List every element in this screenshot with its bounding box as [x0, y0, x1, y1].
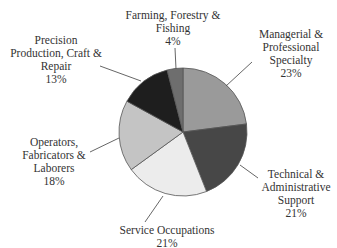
slice-percent-label: 4%	[165, 35, 181, 47]
slice-percent-label: 13%	[45, 73, 67, 85]
slice-percent-label: 21%	[156, 237, 178, 248]
pie-chart: Managerial &ProfessionalSpecialty23%Tech…	[0, 0, 337, 248]
slice-label: Repair	[41, 60, 72, 73]
slice-label: Administrative	[262, 181, 331, 193]
leader-line	[226, 62, 252, 86]
slice-percent-label: 23%	[280, 67, 302, 79]
slice-label: Fishing	[156, 22, 191, 35]
slice-label: Specialty	[270, 54, 313, 67]
leader-line	[175, 48, 176, 69]
leader-line	[240, 165, 258, 178]
leader-line	[90, 138, 119, 152]
slice-label: Farming, Forestry &	[126, 9, 221, 22]
slice-label: Operators,	[30, 136, 78, 149]
slice-label: Professional	[263, 41, 320, 53]
slice-percent-label: 21%	[285, 207, 307, 219]
slice-label: Service Occupations	[120, 224, 215, 237]
slice-label: Precision	[35, 34, 78, 46]
slice-label: Managerial &	[259, 28, 323, 41]
slice-percent-label: 18%	[43, 175, 65, 187]
pie-slice	[183, 68, 246, 132]
slice-label: Support	[278, 194, 315, 207]
slice-label: Laborers	[34, 162, 75, 174]
leader-line	[100, 66, 141, 81]
slice-label: Production, Craft &	[10, 47, 102, 60]
slice-label: Technical &	[268, 168, 324, 180]
leader-line	[145, 196, 163, 222]
slice-label: Fabricators &	[22, 149, 86, 161]
